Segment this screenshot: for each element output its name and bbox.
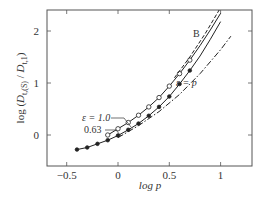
y-tick-label: 2 <box>34 25 40 37</box>
data-point <box>147 105 151 109</box>
series-line <box>108 13 221 135</box>
y-axis-label: log (Dt,(S) / Dt,1) <box>14 52 29 123</box>
data-point <box>167 84 171 88</box>
y-tick-label: 0 <box>34 129 40 141</box>
data-point <box>177 71 181 75</box>
data-point <box>188 58 192 62</box>
data-point <box>188 69 192 73</box>
annotations: ε = 1.0 0.63 B ε = p <box>82 28 200 136</box>
figure: −0.500.51012 ε = 1.0 0.63 B ε = p log p … <box>0 0 261 207</box>
data-point <box>96 142 100 146</box>
plot-frame <box>47 10 252 166</box>
data-point <box>75 148 79 152</box>
series-line <box>174 8 220 78</box>
data-point <box>157 105 161 109</box>
data-point <box>136 113 140 117</box>
axis-ticks: −0.500.51012 <box>34 10 253 181</box>
data-point <box>147 114 151 118</box>
annotation-eps-p: ε = p <box>176 77 197 88</box>
annotation-eps-1: ε = 1.0 <box>82 112 110 123</box>
data-point <box>157 95 161 99</box>
series-line <box>118 36 231 137</box>
data-point <box>106 133 110 137</box>
x-axis-label: log p <box>139 179 162 191</box>
data-point <box>106 138 110 142</box>
data-point <box>168 95 172 99</box>
annotation-B: B <box>193 28 200 39</box>
x-tick-label: 0 <box>115 169 121 181</box>
svg-text:log (Dt,(S) / Dt,1): log (Dt,(S) / Dt,1) <box>14 52 29 123</box>
annotation-0-63: 0.63 <box>84 124 102 135</box>
y-tick-label: 1 <box>34 77 40 89</box>
data-point <box>85 146 89 150</box>
x-tick-label: 1 <box>218 169 224 181</box>
x-tick-label: −0.5 <box>57 169 77 181</box>
x-tick-label: 0.5 <box>162 169 176 181</box>
chart-svg: −0.500.51012 ε = 1.0 0.63 B ε = p log p … <box>0 0 261 207</box>
